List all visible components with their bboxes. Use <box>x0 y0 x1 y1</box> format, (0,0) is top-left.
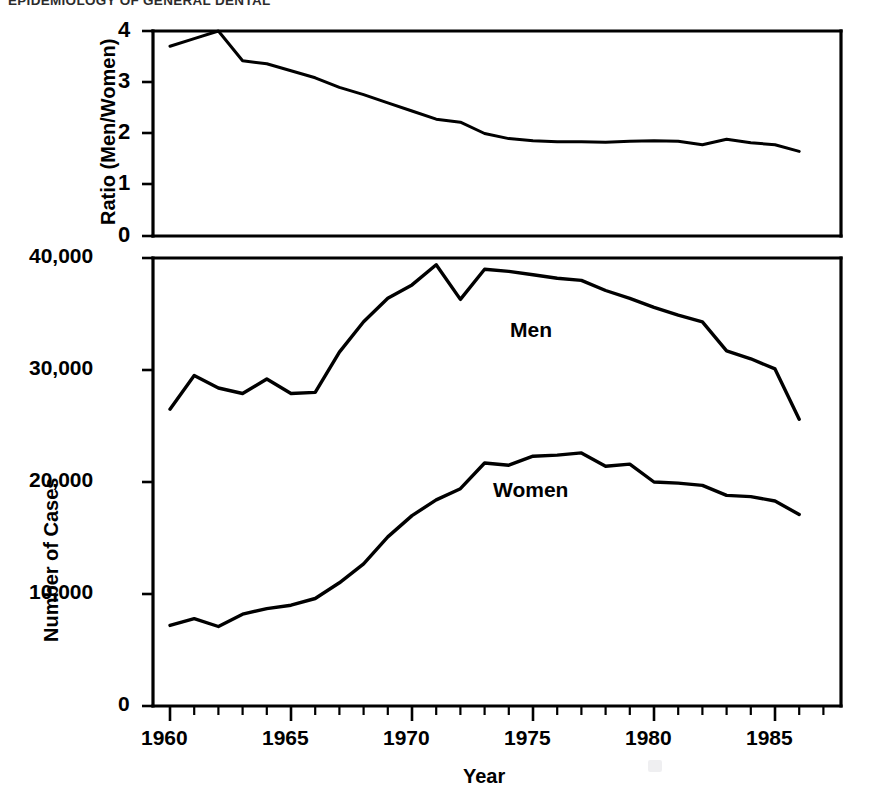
cases-xtick-1975: 1975 <box>504 726 551 750</box>
cases-ytick-0: 0 <box>118 692 130 716</box>
cases-xtick-1965: 1965 <box>262 726 309 750</box>
cases-xtick-1980: 1980 <box>625 726 672 750</box>
men-line <box>170 265 799 420</box>
series-annotation-women: Women <box>493 478 568 502</box>
scan-artifact <box>648 760 662 772</box>
cases-xtick-1960: 1960 <box>141 726 188 750</box>
men-series-line <box>170 265 799 420</box>
cases-y-ticks <box>142 258 153 706</box>
ratio-line <box>170 31 799 151</box>
cases-ytick-30000: 30,000 <box>29 356 93 380</box>
series-annotation-men: Men <box>510 318 552 342</box>
cases-xtick-1970: 1970 <box>383 726 430 750</box>
cases-panel-axes <box>142 258 841 721</box>
figure-container: EPIDEMIOLOGY OF GENERAL DENTAL <box>0 0 876 802</box>
cases-x-ticks <box>170 706 823 721</box>
women-series-line <box>170 453 799 627</box>
ratio-ytick-0: 0 <box>118 222 130 248</box>
cases-ytick-40000: 40,000 <box>29 244 93 268</box>
cases-x-axis-title: Year <box>463 765 505 788</box>
cases-xtick-1985: 1985 <box>746 726 793 750</box>
ratio-y-axis-title: Ratio (Men/Women) <box>97 39 120 225</box>
women-line <box>170 453 799 627</box>
cases-y-axis-title: Number of Cases <box>40 478 63 643</box>
ratio-y-ticks <box>142 31 153 236</box>
chart-canvas <box>0 0 876 802</box>
ratio-series-line <box>170 31 799 151</box>
